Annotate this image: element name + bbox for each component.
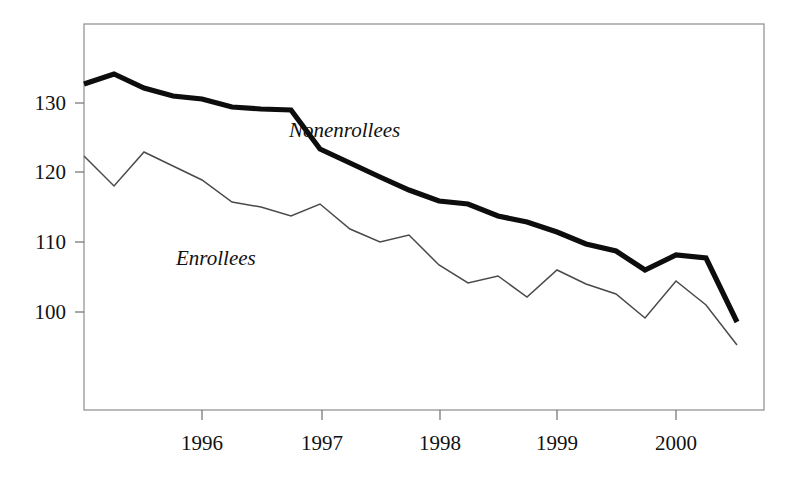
x-tick-label-2000: 2000 [655,431,697,455]
series-label-nonenrollees: Nonenrollees [288,118,400,142]
x-tick-label-1998: 1998 [419,431,461,455]
y-tick-label-110: 110 [35,230,66,254]
x-axis-tick-labels: 19961997199819992000 [181,431,697,455]
series-label-enrollees: Enrollees [175,246,256,270]
x-tick-label-1996: 1996 [181,431,223,455]
x-tick-label-1997: 1997 [301,431,343,455]
line-chart: 100110120130 19961997199819992000 Nonenr… [0,0,795,486]
x-axis-ticks [202,410,676,420]
chart-container: 100110120130 19961997199819992000 Nonenr… [0,0,795,486]
series-line-nonenrollees [84,74,737,322]
y-tick-label-100: 100 [35,300,67,324]
plot-frame [84,24,764,410]
y-tick-label-120: 120 [35,160,67,184]
y-axis-tick-labels: 100110120130 [35,91,67,324]
y-tick-label-130: 130 [35,91,67,115]
x-tick-label-1999: 1999 [536,431,578,455]
y-axis-ticks [75,103,84,312]
